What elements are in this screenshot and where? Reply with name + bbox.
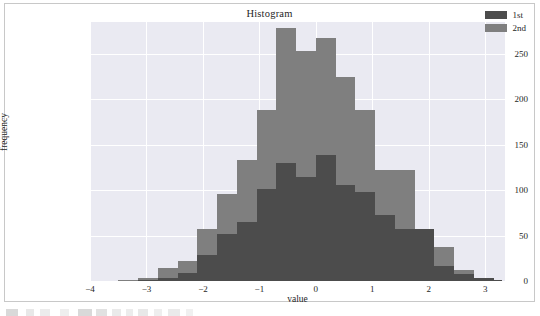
x-axis-tick: −3 xyxy=(142,284,152,294)
histogram-bar xyxy=(434,266,454,281)
histogram-bar xyxy=(336,185,356,281)
histogram-bar xyxy=(197,255,217,281)
histogram-bar xyxy=(296,177,316,281)
histogram-bar xyxy=(395,229,415,281)
histogram-bar xyxy=(217,234,237,281)
x-axis-tick: 0 xyxy=(314,284,319,294)
x-axis-tick: 2 xyxy=(427,284,432,294)
gridline-vertical xyxy=(485,22,486,281)
legend-item: 2nd xyxy=(485,23,527,33)
x-axis-tick: 3 xyxy=(483,284,488,294)
legend-swatch-icon xyxy=(485,24,507,32)
x-axis-tick: −1 xyxy=(255,284,265,294)
histogram-bar xyxy=(118,280,138,281)
y-axis-label: frequency xyxy=(0,113,9,151)
histogram-bar xyxy=(454,274,474,281)
histogram-bar xyxy=(355,192,375,281)
x-axis-tick: −4 xyxy=(85,284,95,294)
histogram-bar xyxy=(138,280,158,281)
gridline-vertical xyxy=(146,22,147,281)
page-title: Histogram xyxy=(5,8,534,19)
histogram-bar xyxy=(158,278,178,281)
chart-legend: 1st2nd xyxy=(485,10,527,36)
histogram-bar xyxy=(474,278,494,281)
legend-label: 1st xyxy=(513,10,524,20)
cropped-content-below-figure xyxy=(0,306,540,316)
histogram-bar xyxy=(178,273,198,281)
gridline-vertical xyxy=(90,22,91,281)
x-axis-label: value xyxy=(90,294,505,304)
histogram-bar xyxy=(494,280,502,281)
histogram-bar xyxy=(237,222,257,281)
legend-item: 1st xyxy=(485,10,527,20)
x-axis-tick: 1 xyxy=(370,284,375,294)
histogram-bar xyxy=(257,189,277,281)
histogram-bar xyxy=(316,155,336,281)
histogram-bar xyxy=(375,215,395,281)
plot-area xyxy=(90,22,505,281)
legend-swatch-icon xyxy=(485,11,507,19)
x-axis-tick: −2 xyxy=(198,284,208,294)
histogram-bar xyxy=(415,229,435,281)
histogram-bar xyxy=(276,163,296,281)
legend-label: 2nd xyxy=(513,23,527,33)
figure-frame: Histogram frequency value 05010015020025… xyxy=(4,3,535,302)
